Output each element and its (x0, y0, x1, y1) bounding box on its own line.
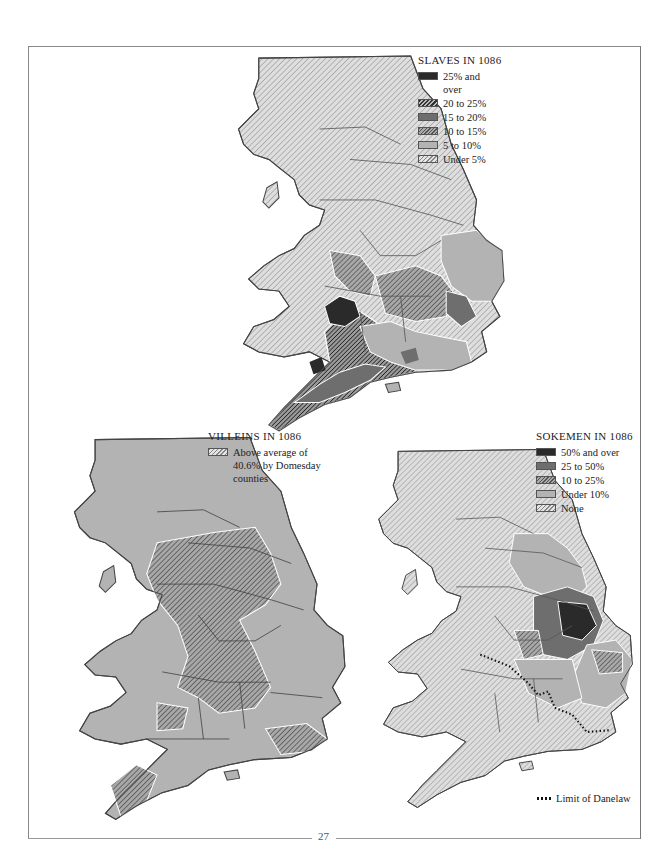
swatch-50-over (536, 448, 556, 456)
swatch-10-15 (418, 127, 438, 135)
legend-item: Under 5% (418, 153, 528, 166)
danelaw-legend: Limit of Danelaw (537, 792, 631, 806)
legend-item: Above average of 40.6% by Domesday count… (208, 446, 333, 485)
villeins-map (28, 428, 348, 828)
footer-rule-right (336, 838, 640, 839)
legend-item: 10 to 15% (418, 125, 528, 138)
legend-item: 5 to 10% (418, 139, 528, 152)
swatch-10-25 (536, 476, 556, 484)
slaves-legend-title: SLAVES IN 1086 (418, 54, 528, 67)
swatch-25-50 (536, 462, 556, 470)
swatch-5-10 (418, 141, 438, 149)
swatch-under-10 (536, 490, 556, 498)
swatch-25-over (418, 72, 438, 80)
sokemen-legend-title: SOKEMEN IN 1086 (536, 430, 641, 443)
swatch-above-average (208, 448, 228, 456)
swatch-20-25 (418, 99, 438, 107)
legend-item: 25 to 50% (536, 460, 641, 473)
legend-item: 25% and over (418, 70, 528, 96)
legend-item: Under 10% (536, 488, 641, 501)
legend-item: 10 to 25% (536, 474, 641, 487)
legend-item: 50% and over (536, 446, 641, 459)
danelaw-label: Limit of Danelaw (556, 792, 631, 805)
swatch-15-20 (418, 113, 438, 121)
sokemen-legend: SOKEMEN IN 1086 50% and over 25 to 50% 1… (536, 430, 641, 516)
villeins-legend-title: VILLEINS IN 1086 (208, 430, 333, 443)
legend-item: 15 to 20% (418, 111, 528, 124)
legend-item: None (536, 502, 641, 515)
swatch-under-5 (418, 155, 438, 163)
slaves-legend: SLAVES IN 1086 25% and over 20 to 25% 15… (418, 54, 528, 167)
swatch-none (536, 504, 556, 512)
villeins-legend: VILLEINS IN 1086 Above average of 40.6% … (208, 430, 333, 486)
legend-item: 20 to 25% (418, 97, 528, 110)
dotted-line-icon (537, 797, 551, 800)
page-number: 27 (318, 830, 329, 842)
footer-rule-left (28, 838, 312, 839)
